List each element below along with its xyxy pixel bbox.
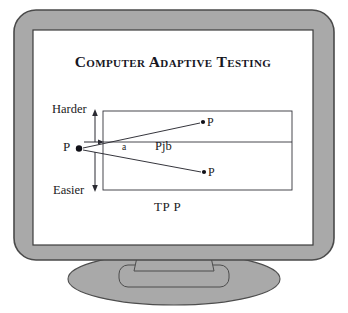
point-label-upper-p: P	[207, 116, 214, 128]
cat-diagram: Harder Easier P a Pjb P P TP P	[33, 30, 313, 245]
diagram-frame	[103, 111, 292, 190]
axis-up-arrowhead	[92, 109, 98, 116]
axis-label-easier: Easier	[53, 184, 84, 197]
branch-down-line	[83, 150, 201, 172]
node-upper-dot	[201, 120, 205, 124]
point-label-lower-p: P	[208, 166, 215, 178]
diagram-bottom-caption: TP P	[154, 200, 181, 213]
screenshot-root: Computer Adaptive Testing	[0, 0, 348, 313]
branch-label-a: a	[122, 143, 126, 153]
axis-label-harder: Harder	[52, 103, 87, 116]
axis-label-p: P	[63, 140, 70, 153]
node-origin-dot	[76, 145, 82, 151]
node-lower-dot	[202, 170, 206, 174]
slide: Computer Adaptive Testing	[33, 30, 313, 245]
branch-up-line	[83, 123, 200, 148]
axis-down-arrowhead	[92, 185, 98, 192]
center-label-pjb: Pjb	[155, 140, 172, 153]
